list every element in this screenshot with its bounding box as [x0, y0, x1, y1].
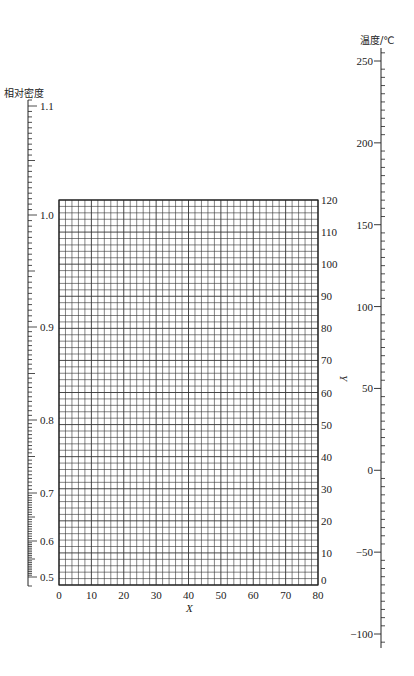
temperature-tick-label: 100 [357, 301, 374, 313]
temperature-tick-label: −50 [356, 546, 374, 558]
density-tick-label: 0.5 [40, 571, 54, 583]
y-tick-label: 80 [321, 322, 333, 334]
temperature-tick-label: −100 [350, 628, 373, 640]
x-tick-label: 70 [280, 589, 292, 601]
x-tick-label: 20 [118, 589, 130, 601]
temperature-axis: 250200150100500−50−100 [350, 48, 385, 648]
temperature-tick-label: 50 [362, 382, 374, 394]
y-tick-label: 120 [321, 194, 338, 206]
y-tick-label: 20 [321, 515, 333, 527]
y-tick-label: 40 [321, 451, 333, 463]
y-tick-label: 0 [321, 574, 327, 586]
density-tick-label: 1.1 [40, 100, 54, 112]
x-tick-label: 10 [86, 589, 98, 601]
x-axis-label: X [185, 602, 194, 614]
y-tick-label: 60 [321, 387, 333, 399]
x-tick-label: 40 [183, 589, 195, 601]
y-tick-label: 110 [321, 226, 338, 238]
density-tick-label: 0.9 [40, 321, 54, 333]
density-tick-label: 1.0 [40, 209, 54, 221]
x-tick-label: 50 [215, 589, 227, 601]
x-tick-label: 60 [248, 589, 260, 601]
density-tick-label: 0.7 [40, 487, 54, 499]
y-tick-label: 90 [321, 290, 333, 302]
temperature-tick-label: 250 [357, 55, 374, 67]
x-tick-label: 30 [151, 589, 163, 601]
temperature-label: 温度/℃ [360, 34, 395, 46]
y-tick-label: 10 [321, 547, 333, 559]
x-tick-label: 80 [313, 589, 325, 601]
y-tick-label: 70 [321, 354, 333, 366]
relative-density-label: 相对密度 [4, 87, 44, 99]
temperature-tick-label: 0 [368, 464, 374, 476]
temperature-tick-label: 150 [357, 219, 374, 231]
nomograph-chart: 1.11.00.90.80.70.60.5 010203040506070800… [0, 0, 414, 676]
x-tick-label: 0 [56, 589, 62, 601]
y-tick-label: 30 [321, 483, 333, 495]
xy-grid: 0102030405060708001020304050607080901001… [56, 194, 338, 601]
temperature-tick-label: 200 [357, 137, 374, 149]
relative-density-axis: 1.11.00.90.80.70.60.5 [28, 100, 54, 586]
y-tick-label: 50 [321, 419, 333, 431]
y-tick-label: 100 [321, 258, 338, 270]
density-tick-label: 0.6 [40, 535, 54, 547]
density-tick-label: 0.8 [40, 414, 54, 426]
y-axis-label: Y [338, 375, 350, 383]
